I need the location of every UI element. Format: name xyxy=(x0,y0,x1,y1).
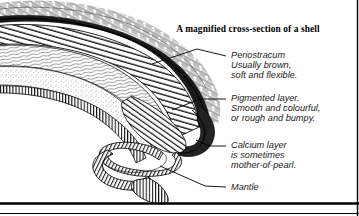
label-calcium-layer: Calcium layer is sometimes mother-of-pea… xyxy=(231,140,296,170)
label-line: Calcium layer xyxy=(231,140,288,150)
illustration-canvas: A magnified cross-section of a shell Per… xyxy=(0,0,359,216)
label-line: soft and flexible. xyxy=(231,70,297,80)
figure-title: A magnified cross-section of a shell xyxy=(176,24,320,34)
mantle-foot xyxy=(132,178,169,204)
label-line: Usually brown, xyxy=(231,60,291,70)
label-line: or rough and bumpy. xyxy=(231,113,315,123)
label-periostracum: Periostracum Usually brown, soft and fle… xyxy=(231,50,297,80)
label-line: mother-of-pearl. xyxy=(231,160,296,170)
label-line: Periostracum xyxy=(231,50,285,60)
label-mantle: Mantle xyxy=(231,182,259,192)
label-line: Smooth and colourful, xyxy=(231,103,320,113)
label-pigmented-layer: Pigmented layer. Smooth and colourful, o… xyxy=(231,93,320,123)
shell-cross-section-figure: A magnified cross-section of a shell Per… xyxy=(0,0,359,216)
label-line: is sometimes xyxy=(231,150,285,160)
label-line: Mantle xyxy=(231,182,259,192)
label-line: Pigmented layer. xyxy=(231,93,300,103)
